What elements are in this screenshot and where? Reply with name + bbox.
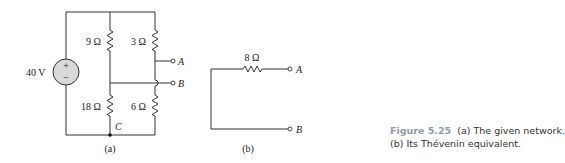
network-a: + − 40 V 9 Ω 18 Ω 3 Ω 6 Ω A B C (a): [26, 12, 185, 155]
source-minus: −: [63, 72, 69, 83]
resistor-9-icon: [107, 30, 113, 51]
caption-line-1: Figure 5.25(a) The given network.: [390, 124, 565, 137]
caption-text-1: (a) The given network.: [457, 125, 565, 136]
terminal-a-label: A: [177, 56, 185, 67]
figure-number: Figure 5.25: [390, 125, 451, 136]
terminal-b-icon: [171, 81, 175, 85]
r1-label: 9 Ω: [86, 36, 101, 47]
b-terminal-b-icon: [288, 127, 292, 131]
r4-label: 6 Ω: [131, 101, 146, 112]
node-c-label: C: [115, 121, 122, 132]
b-terminal-b-label: B: [296, 124, 302, 135]
b-terminal-a-label: A: [295, 64, 303, 75]
node-c-dot: [108, 133, 112, 137]
r2-label: 3 Ω: [131, 36, 146, 47]
b-r-label: 8 Ω: [245, 52, 260, 63]
terminal-b-label: B: [178, 78, 184, 89]
figure-caption: Figure 5.25(a) The given network. (b) It…: [390, 124, 565, 150]
b-terminal-a-icon: [288, 67, 292, 71]
source-plus: +: [63, 60, 69, 71]
resistor-6-icon: [152, 95, 158, 116]
terminal-a-icon: [171, 59, 175, 63]
caption-text-2: (b) Its Thévenin equivalent.: [390, 137, 565, 150]
sublabel-a: (a): [104, 143, 115, 155]
sublabel-b: (b): [242, 143, 254, 155]
r3-label: 18 Ω: [81, 101, 101, 112]
resistor-18-icon: [107, 95, 113, 116]
thevenin-equivalent-b: A 8 Ω B (b): [211, 52, 303, 155]
resistor-8-icon: [243, 66, 262, 72]
resistor-3-icon: [152, 30, 158, 51]
source-label: 40 V: [26, 67, 46, 78]
